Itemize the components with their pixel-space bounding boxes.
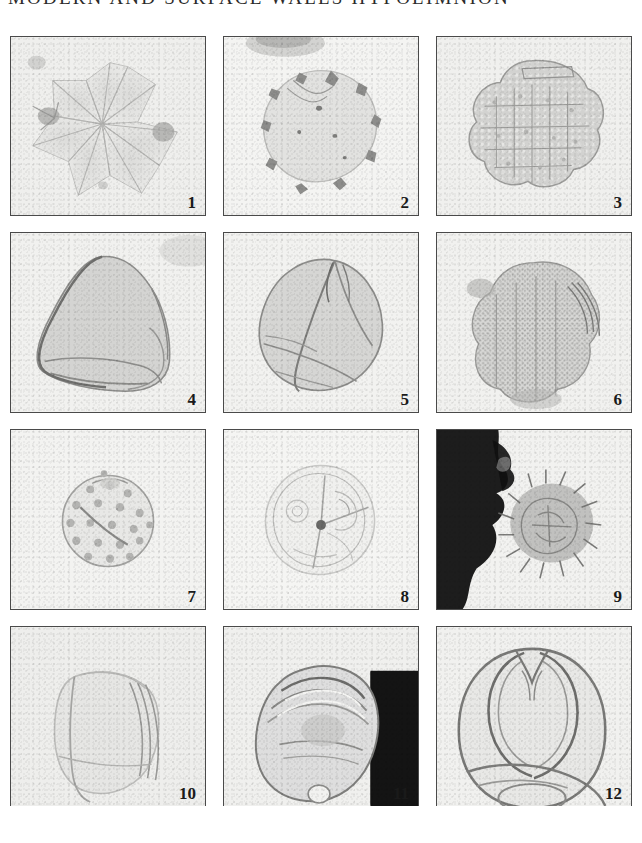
micrograph-12 [437,627,631,806]
micrograph-9 [437,430,631,609]
figure-number-8: 8 [401,588,410,605]
micrograph-2 [224,37,418,215]
micrograph-7 [11,430,205,609]
figure-panel-9[interactable]: 9 [436,429,632,610]
micrograph-4 [11,233,205,412]
micrograph-1 [11,37,205,215]
figure-panel-11[interactable]: 11 [223,626,419,806]
micrograph-5 [224,233,418,412]
figure-number-7: 7 [188,588,197,605]
figure-panel-4[interactable]: 4 [10,232,206,413]
figure-panel-6[interactable]: 6 [436,232,632,413]
figure-panel-3[interactable]: 3 [436,36,632,216]
figure-number-10: 10 [179,785,196,802]
figure-number-4: 4 [188,391,197,408]
figure-number-1: 1 [188,194,197,211]
micrograph-11 [224,627,418,806]
figure-number-5: 5 [401,391,410,408]
figure-panel-12[interactable]: 12 [436,626,632,806]
micrograph-3 [437,37,631,215]
figure-number-2: 2 [401,194,410,211]
figure-panel-5[interactable]: 5 [223,232,419,413]
figure-number-9: 9 [614,588,623,605]
figure-number-3: 3 [614,194,623,211]
figure-plate-grid: 1 [10,36,632,843]
plate-running-title: MODERN AND SURFACE WALLS HYPOLIMNION [0,0,642,11]
figure-number-12: 12 [605,785,622,802]
figure-number-6: 6 [614,391,623,408]
figure-panel-10[interactable]: 10 [10,626,206,806]
micrograph-6 [437,233,631,412]
micrograph-8 [224,430,418,609]
figure-number-11: 11 [393,785,409,802]
plate-title-text: MODERN AND SURFACE WALLS HYPOLIMNION [8,0,510,9]
figure-panel-2[interactable]: 2 [223,36,419,216]
micrograph-10 [11,627,205,806]
figure-panel-8[interactable]: 8 [223,429,419,610]
figure-panel-1[interactable]: 1 [10,36,206,216]
figure-panel-7[interactable]: 7 [10,429,206,610]
